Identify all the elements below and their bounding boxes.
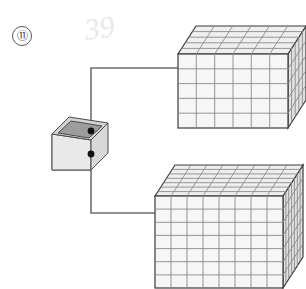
figure-number-badge: ⑪ bbox=[13, 27, 32, 46]
cube-bottom-right bbox=[155, 165, 303, 288]
handwriting-scribble: 39 bbox=[81, 9, 116, 46]
connector-bottom-wire bbox=[91, 154, 155, 213]
technical-diagram: 39 ⑪ bbox=[0, 0, 306, 289]
box-top-port-node[interactable] bbox=[88, 128, 95, 135]
cube-top-right bbox=[178, 26, 306, 128]
box-front-port-node[interactable] bbox=[88, 151, 95, 158]
scribble-text: 39 bbox=[81, 9, 116, 46]
connector-top-wire bbox=[91, 68, 178, 131]
open-top-box bbox=[52, 117, 108, 170]
figure-number-label: ⑪ bbox=[17, 30, 28, 42]
figure-canvas: 39 ⑪ bbox=[0, 0, 306, 289]
